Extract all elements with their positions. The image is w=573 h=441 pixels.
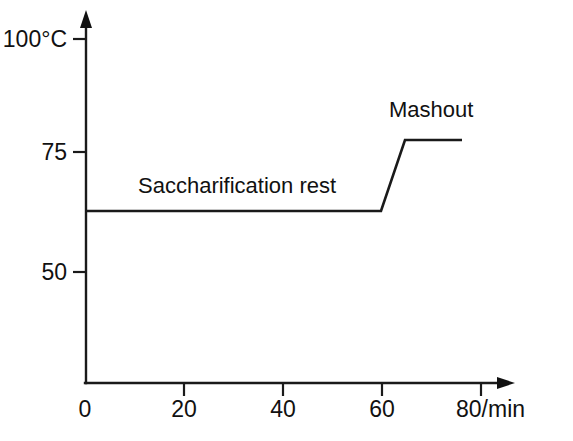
x-axis-arrow-icon	[497, 377, 515, 389]
y-tick-label-100: 100°C	[3, 28, 67, 51]
x-tick-label-20: 20	[159, 398, 209, 421]
x-tick-label-80: 80/min	[456, 398, 556, 421]
y-tick-label-50: 50	[41, 261, 67, 284]
x-tick-label-0: 0	[60, 398, 110, 421]
chart-canvas	[0, 0, 573, 441]
annotation-saccharification-rest: Saccharification rest	[138, 175, 336, 197]
x-tick-label-60: 60	[357, 398, 407, 421]
annotation-mashout: Mashout	[389, 99, 473, 121]
y-axis-arrow-icon	[80, 10, 92, 28]
y-tick-label-75: 75	[41, 141, 67, 164]
chart-page: 100°C 75 50 0 20 40 60 80/min Saccharifi…	[0, 0, 573, 441]
x-tick-label-40: 40	[258, 398, 308, 421]
